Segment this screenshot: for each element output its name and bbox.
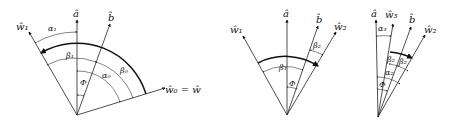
panel-2: â b̂ ŵ₂ ŵ₁ β₁ β₂ Φ <box>230 8 347 115</box>
vector-a-line <box>376 20 378 117</box>
label-phi: Φ <box>289 79 296 88</box>
label-w1: ŵ₁ <box>230 24 243 35</box>
label-w3: ŵ₃ <box>385 9 398 20</box>
label-b: b̂ <box>409 13 415 25</box>
label-w0-equals-w: ŵ₀ = ŵ <box>165 84 201 95</box>
label-beta2-right: β₂ <box>398 57 407 66</box>
label-w2: ŵ₂ <box>424 24 437 35</box>
label-alpha3: α₃ <box>378 24 387 33</box>
diagram-canvas: â b̂ ŵ₁ ŵ₀ = ŵ α₁ β₁ α₀ β₀ Φ â b̂ ŵ₂ ŵ₁ … <box>0 0 457 123</box>
vector-w1-line <box>29 32 77 115</box>
label-beta2-left: β₂ <box>386 55 395 64</box>
label-phi: Φ <box>379 80 386 89</box>
label-beta1: β₁ <box>278 63 287 72</box>
panel-1: â b̂ ŵ₁ ŵ₀ = ŵ α₁ β₁ α₀ β₀ Φ <box>16 8 201 115</box>
vector-w0-line <box>77 88 165 115</box>
label-alpha1: α₁ <box>48 24 57 33</box>
angle-beta2-arc <box>310 50 323 55</box>
label-phi: Φ <box>80 78 87 87</box>
angle-alpha1-arc <box>35 32 77 43</box>
panel-3: â ŵ₃ b̂ ŵ₂ α₃ β₂ β₂ α₂ Φ <box>371 8 437 117</box>
label-beta2: β₂ <box>312 41 321 50</box>
label-w2: ŵ₂ <box>334 21 347 32</box>
vector-b-line <box>77 24 110 115</box>
label-beta1: β₁ <box>65 51 74 60</box>
label-a: â <box>283 8 289 19</box>
label-a: â <box>371 8 377 19</box>
label-alpha0: α₀ <box>102 71 111 80</box>
label-w1: ŵ₁ <box>16 21 29 32</box>
label-beta0: β₀ <box>119 66 129 75</box>
label-alpha2: α₂ <box>385 68 394 77</box>
vector-w1-line <box>243 36 287 115</box>
bold-arc <box>258 56 318 66</box>
angle-phi-arc <box>77 95 84 96</box>
label-a: â <box>73 8 79 19</box>
label-b: b̂ <box>316 13 322 25</box>
label-b: b̂ <box>108 11 114 23</box>
vector-b-line <box>378 27 411 117</box>
